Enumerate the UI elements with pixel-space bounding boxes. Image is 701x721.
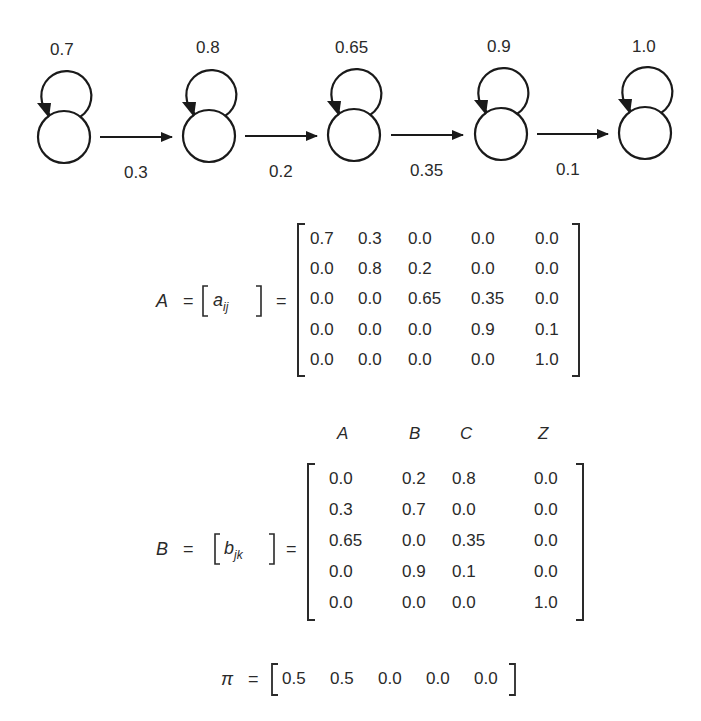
state-node-2 (183, 70, 236, 162)
matrix-b-cell: 0.0 (534, 531, 558, 551)
matrix-b-lhs: B = (156, 539, 194, 560)
matrix-b-column-header: Z (538, 424, 548, 444)
equals-sign: = (183, 539, 194, 559)
matrix-b-cell: 0.0 (402, 593, 426, 613)
matrix-a-symbol: A (156, 291, 168, 311)
matrix-a-cell: 0.0 (310, 259, 334, 279)
pi-symbol: π (221, 669, 233, 689)
matrix-b-cell: 0.8 (452, 469, 476, 489)
state-node-3 (328, 69, 381, 161)
pi-value: 0.0 (426, 669, 450, 689)
matrix-a-cell: 0.0 (471, 229, 495, 249)
matrix-b-cell: 0.35 (452, 531, 485, 551)
self-loop-arrowhead-5 (618, 99, 632, 114)
self-loop-label-3: 0.65 (335, 38, 368, 58)
pi-value: 0.0 (474, 669, 498, 689)
matrix-a-cell: 0.0 (408, 350, 432, 370)
matrix-b-cell: 0.9 (402, 562, 426, 582)
matrix-a-cell: 0.8 (358, 259, 382, 279)
matrix-b-cell: 0.0 (534, 500, 558, 520)
element-bracket (200, 284, 270, 318)
self-loop-arrowhead-1 (37, 103, 51, 118)
matrix-a-cell: 0.0 (310, 289, 334, 309)
state-diagram (0, 0, 701, 200)
matrix-a-cell: 0.65 (408, 289, 441, 309)
equals-sign: = (276, 291, 287, 312)
matrix-a-cell: 0.0 (310, 350, 334, 370)
element-bracket (212, 532, 282, 566)
matrix-a-cell: 0.3 (358, 229, 382, 249)
matrix-b-cell: 0.7 (402, 500, 426, 520)
matrix-b-cell: 0.0 (452, 593, 476, 613)
matrix-a-cell: 0.0 (408, 320, 432, 340)
matrix-a-cell: 0.1 (535, 320, 559, 340)
matrix-b-cell: 0.0 (534, 562, 558, 582)
self-loop-arrowhead-2 (182, 102, 196, 117)
matrix-a-cell: 0.35 (471, 289, 504, 309)
self-loop-arrowhead-3 (327, 101, 341, 116)
matrix-b-column-header: C (460, 424, 472, 444)
matrix-b-symbol: B (156, 539, 168, 559)
matrix-a-cell: 0.0 (358, 350, 382, 370)
pi-value: 0.0 (378, 669, 402, 689)
matrix-b-column-header: A (337, 424, 348, 444)
equals-sign: = (248, 669, 259, 689)
matrix-b-cell: 0.3 (329, 500, 353, 520)
transition-label-4-5: 0.1 (556, 160, 580, 180)
matrix-a-cell: 0.0 (408, 229, 432, 249)
self-loop-label-2: 0.8 (196, 38, 220, 58)
matrix-b-cell: 0.65 (329, 531, 362, 551)
matrix-a-cell: 0.0 (535, 259, 559, 279)
equals-sign: = (183, 291, 194, 311)
matrix-a-cell: 0.2 (408, 259, 432, 279)
matrix-a-element: aij (213, 290, 228, 311)
matrix-a-cell: 0.0 (471, 259, 495, 279)
matrix-a-cell: 0.0 (471, 350, 495, 370)
matrix-a-cell: 0.0 (535, 229, 559, 249)
self-loop-arrowhead-4 (474, 100, 488, 115)
matrix-b-cell: 0.0 (329, 562, 353, 582)
transition-label-1-2: 0.3 (124, 163, 148, 183)
matrix-b-cell: 0.0 (452, 500, 476, 520)
pi-lhs: π = (221, 669, 259, 690)
state-node-1 (38, 71, 91, 163)
matrix-b-cell: 1.0 (534, 593, 558, 613)
matrix-a-cell: 0.0 (310, 320, 334, 340)
self-loop-label-5: 1.0 (632, 37, 656, 57)
matrix-a-cell: 1.0 (535, 350, 559, 370)
matrix-a-cell: 0.0 (358, 289, 382, 309)
pi-value: 0.5 (330, 669, 354, 689)
matrix-b-cell: 0.0 (329, 593, 353, 613)
transition-label-3-4: 0.35 (410, 161, 443, 181)
self-loop-label-1: 0.7 (50, 40, 74, 60)
self-loop-label-4: 0.9 (487, 37, 511, 57)
state-node-5 (619, 67, 672, 159)
matrix-b-column-header: B (409, 424, 420, 444)
matrix-b-cell: 0.0 (329, 469, 353, 489)
transition-label-2-3: 0.2 (269, 162, 293, 182)
matrix-b-element: bjk (224, 538, 243, 559)
pi-value: 0.5 (282, 669, 306, 689)
matrix-a-lhs: A = (156, 291, 194, 312)
matrix-a-cell: 0.7 (310, 229, 334, 249)
matrix-a-cell: 0.0 (535, 289, 559, 309)
matrix-b-cell: 0.2 (402, 469, 426, 489)
equals-sign: = (286, 539, 297, 560)
state-node-4 (475, 68, 528, 160)
matrix-a-cell: 0.0 (358, 320, 382, 340)
matrix-b-cell: 0.0 (534, 469, 558, 489)
matrix-b-cell: 0.0 (402, 531, 426, 551)
matrix-b-cell: 0.1 (452, 562, 476, 582)
matrix-a-cell: 0.9 (471, 320, 495, 340)
